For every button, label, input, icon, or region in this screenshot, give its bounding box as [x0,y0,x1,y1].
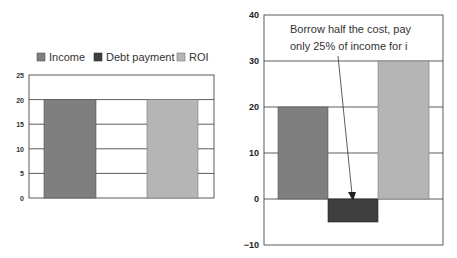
bar-income [278,107,328,199]
tick-label: 0 [20,195,24,202]
tick-label: 15 [16,121,24,128]
bar-roi [147,100,198,198]
bar-income [44,100,96,198]
legend-label-roi: ROI [189,51,209,63]
tick-label: 5 [20,170,24,177]
legend-label-debt-payment: Debt payment [106,51,174,63]
annotation-line-1: Borrow half the cost, pay [290,23,412,35]
left-y-ticks: 25 20 15 10 5 0 [16,72,24,202]
tick-label: 10 [249,148,259,158]
tick-label: 40 [249,10,259,20]
tick-label: 20 [249,102,259,112]
bar-roi [378,61,429,199]
tick-label: 25 [16,72,24,79]
legend-swatch-roi [177,53,185,61]
tick-label: 10 [16,146,24,153]
tick-label: 30 [249,56,259,66]
legend-swatch-debt-payment [94,53,102,61]
right-y-ticks: 40 30 20 10 0 −10 [244,10,259,250]
left-chart: 25 20 15 10 5 0 [16,72,214,202]
tick-label: 0 [254,194,259,204]
tick-label: −10 [244,240,259,250]
legend: Income Debt payment ROI [37,51,209,63]
charts: Income Debt payment ROI 25 20 15 10 5 0 [0,0,457,258]
tick-label: 20 [16,97,24,104]
legend-label-income: Income [49,51,85,63]
legend-swatch-income [37,53,45,61]
annotation-line-2: only 25% of income for i [290,40,407,52]
right-chart: 40 30 20 10 0 −10 Borrow half the cost, … [244,10,443,250]
bar-debt-payment [328,199,378,222]
